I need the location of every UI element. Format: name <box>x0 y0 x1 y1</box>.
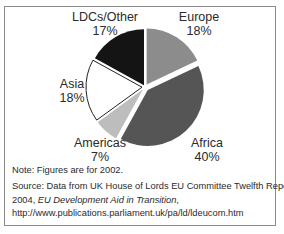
label-africa-pct: 40% <box>182 150 232 164</box>
label-ldcs-name: LDCs/Other <box>62 10 148 24</box>
label-asia-name: Asia <box>52 77 92 91</box>
label-europe: Europe 18% <box>170 10 228 38</box>
label-ldcs-pct: 17% <box>62 24 148 38</box>
label-africa-name: Africa <box>182 136 232 150</box>
label-americas-pct: 7% <box>62 150 138 164</box>
pie-slices <box>86 28 204 145</box>
label-asia: Asia 18% <box>52 77 92 105</box>
label-africa: Africa 40% <box>182 136 232 164</box>
figure-note: Note: Figures are for 2002. <box>12 164 123 177</box>
label-americas: Americas 7% <box>62 136 138 164</box>
source-report-title: EU Development Aid in Transition <box>38 195 176 205</box>
label-europe-name: Europe <box>170 10 228 24</box>
label-americas-name: Americas <box>62 136 138 150</box>
label-ldcs-other: LDCs/Other 17% <box>62 10 148 38</box>
source-line-1: Source: Data from UK House of Lords EU C… <box>12 180 284 194</box>
source-url: http://www.publications.parliament.uk/pa… <box>12 207 284 221</box>
source-year: 2004, <box>12 195 38 205</box>
label-asia-pct: 18% <box>52 91 92 105</box>
source-line-2: 2004, EU Development Aid in Transition, <box>12 194 284 208</box>
label-europe-pct: 18% <box>170 24 228 38</box>
figure-source: Source: Data from UK House of Lords EU C… <box>12 180 284 221</box>
source-comma: , <box>176 195 179 205</box>
